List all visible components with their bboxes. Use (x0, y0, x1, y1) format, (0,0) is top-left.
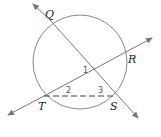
diagram-canvas: Q R T S 1 2 3 (0, 0, 161, 137)
point-label-q: Q (45, 8, 54, 21)
angle-label-1: 1 (83, 66, 88, 75)
point-label-r: R (127, 53, 136, 66)
angle-label-3: 3 (98, 86, 103, 95)
point-label-s: S (110, 100, 118, 113)
angle-label-2: 2 (66, 86, 71, 95)
point-label-t: T (38, 100, 47, 113)
geometry-figure: Q R T S 1 2 3 (0, 0, 161, 137)
